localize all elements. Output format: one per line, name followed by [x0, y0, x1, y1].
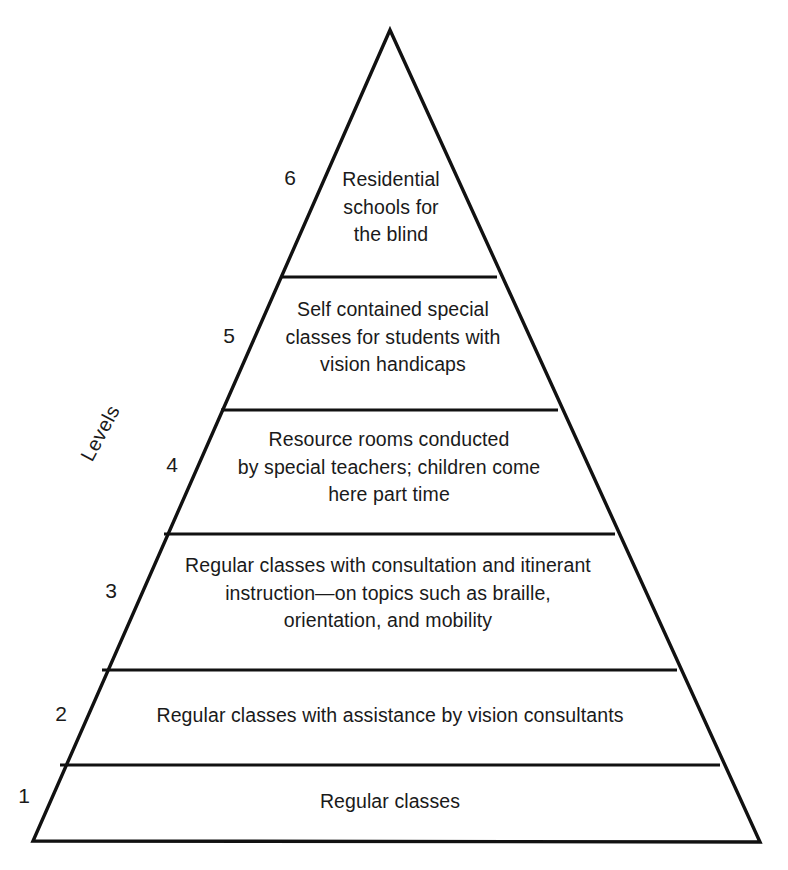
level-number-3: 3: [97, 580, 125, 601]
level-number-2: 2: [47, 703, 75, 724]
level-number-6: 6: [276, 167, 304, 188]
level-text-6: Residential schools for the blind: [309, 166, 473, 249]
level-number-4: 4: [158, 454, 186, 475]
pyramid-diagram: Levels 6 Residential schools for the bli…: [0, 0, 788, 870]
level-text-5: Self contained special classes for stude…: [248, 296, 538, 379]
level-text-2: Regular classes with assistance by visio…: [104, 702, 676, 730]
level-number-1: 1: [10, 785, 38, 806]
level-number-5: 5: [215, 325, 243, 346]
level-text-4: Resource rooms conducted by special teac…: [190, 426, 588, 509]
level-text-3: Regular classes with consultation and it…: [133, 552, 643, 635]
level-text-1: Regular classes: [70, 788, 710, 816]
